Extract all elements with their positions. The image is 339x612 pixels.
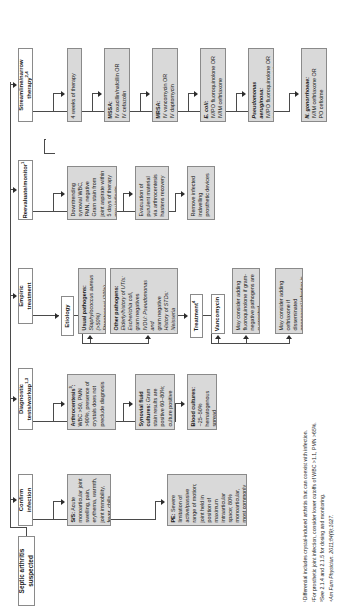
four-weeks-box[interactable]: 4 weeks of therapy xyxy=(67,48,82,122)
diagnostic-column-branch xyxy=(53,404,54,422)
treatment-node[interactable]: Treatment4 xyxy=(190,294,203,338)
column-header-diagnostic-tests[interactable]: Diagnostic tests/workup1,3 xyxy=(18,368,33,430)
four-weeks-text: 4 weeks of therapy xyxy=(70,73,76,118)
streamline-b6h xyxy=(289,94,290,112)
streamline-b2h xyxy=(92,94,93,112)
arrow-to-streamline xyxy=(13,82,17,88)
rotated-figure-wrapper: Septic arthritis suspected Confirm infec… xyxy=(0,0,339,612)
other-pathogens-line-3: gram negatives xyxy=(134,272,141,331)
figure-title: Septic arthritis suspected xyxy=(18,536,35,606)
physical-exam-box[interactable]: PE: Severe limitation of active/passive … xyxy=(167,474,247,526)
confirm-column-stem xyxy=(33,519,53,520)
treatment-sup: 4 xyxy=(191,301,196,303)
column-header-reevaluate-monitor-sup: 1 xyxy=(20,161,25,163)
remove-devices-box[interactable]: Remove infected indwelling prosthetic de… xyxy=(187,166,215,220)
mrsa-line-2: IV daptomycin xyxy=(169,52,176,119)
streamline-column-branch xyxy=(53,94,54,112)
arrow-to-vancomycin xyxy=(215,335,221,339)
footnote-1: ¹Differential includes crystal-induced a… xyxy=(301,366,309,602)
reevaluate-column-stem xyxy=(33,211,53,212)
other-pathogens-line-5: gram negative xyxy=(156,272,163,331)
streamline-b5h xyxy=(236,94,237,112)
etiology-node[interactable]: Etiology xyxy=(61,296,74,336)
arrow-to-mrsa xyxy=(146,91,150,97)
arthrocentesis-lead: Arthrocentesis xyxy=(70,388,76,426)
column-header-confirm-infection[interactable]: Confirm infection xyxy=(18,474,33,526)
usual-pathogens-box[interactable]: Usual pathogens: Staphylococcus aureus (… xyxy=(78,268,106,334)
usual-pathogens-lead: Usual pathogens: xyxy=(81,272,88,331)
column-header-diagnostic-tests-sup: 1,3 xyxy=(24,378,29,384)
evacuation-text: Evacuation of purulent material via arth… xyxy=(138,174,165,216)
ecoli-box[interactable]: E. coli: IV/PO fluoroquinolone OR IV/IM … xyxy=(200,48,226,122)
vancomycin-box[interactable]: Vancomycin xyxy=(211,294,225,334)
column-header-empiric-treatment[interactable]: Empiric treatment xyxy=(18,268,33,324)
column-header-reevaluate-monitor[interactable]: Reevaluate/monitor1 xyxy=(18,160,33,220)
arrow-to-usual-pathogens xyxy=(87,335,93,339)
arrow-to-reevaluate xyxy=(13,187,17,193)
signs-and-symptoms-text: Acute monoarticular joint swelling, pain… xyxy=(70,478,111,523)
downtrending-box[interactable]: Downtrending synovial WBC, PMN, negative… xyxy=(67,166,117,220)
evacuation-box[interactable]: Evacuation of purulent material via arth… xyxy=(135,166,169,220)
arrow-to-evacuation xyxy=(129,191,133,197)
spine-riser xyxy=(10,527,27,528)
downtrending-text: Downtrending synovial WBC, PMN, negative… xyxy=(70,171,117,217)
etiology-label: Etiology xyxy=(64,304,72,327)
add-fluoroquinolone-text: May consider adding fluoroquinolone if g… xyxy=(235,274,260,331)
diagnostic-column-stem xyxy=(33,421,53,422)
blood-lead: Blood cultures: xyxy=(190,387,196,427)
feedback-drop xyxy=(44,139,46,140)
other-pathogens-line-6: History of STDs: Neisseria xyxy=(163,272,177,331)
arrow-to-ecoli xyxy=(194,91,198,97)
other-pathogens-line-1: Elderly/history of UTIs: xyxy=(120,272,127,331)
arrow-to-ss-box xyxy=(61,499,65,505)
pseudomonas-lead: Pseudomonas aeruginosa: xyxy=(251,52,265,119)
streamline-b3h xyxy=(140,94,141,112)
footnote-2: ²For prosthetic joint infection, conside… xyxy=(310,366,318,602)
mssa-line-2: IV cefazolin xyxy=(121,52,128,119)
streamline-column-stem xyxy=(33,111,53,112)
mssa-box[interactable]: MSSA: IV oxacillin/nafcillin OR IV cefaz… xyxy=(104,48,130,122)
mrsa-lead: MRSA: xyxy=(155,52,162,119)
treatment-label: Treatment xyxy=(193,303,199,331)
septic-arthritis-algorithm-figure: Septic arthritis suspected Confirm infec… xyxy=(0,0,339,612)
arthrocentesis-text: WBC >50, PMN >90%, presence of crystals … xyxy=(77,381,104,426)
arrow-to-gonorrhoeae xyxy=(295,91,299,97)
mrsa-line-1: IV vancomycin OR xyxy=(162,52,169,119)
blood-cultures-box[interactable]: Blood cultures: ~25–50% hematogenous spr… xyxy=(187,374,217,430)
blood-text: ~25–50% hematogenous spread xyxy=(197,391,217,427)
pseudomonas-box[interactable]: Pseudomonas aeruginosa: IV/PO fluoroquin… xyxy=(248,48,274,122)
physical-exam-lead: PE: xyxy=(170,514,176,523)
confirm-branch-pe-h xyxy=(155,502,156,520)
footnote-4: ⁴Am Fam Physician. 2011;84(9):1027. xyxy=(327,366,335,602)
arrow-to-add-ceftriaxone xyxy=(286,335,292,339)
gonorrhoeae-line-2: PO cefixime xyxy=(318,52,325,119)
arrow-to-add-fluoroquinolone xyxy=(243,335,249,339)
gonorrhoeae-box[interactable]: N. gonorrhoeae: IV/IM ceftriaxone OR PO … xyxy=(301,48,327,122)
other-pathogens-box[interactable]: Other pathogens: Elderly/history of UTIs… xyxy=(110,268,178,334)
synovial-fluid-cultures-box[interactable]: Synovial fluid cultures: Gram stain resu… xyxy=(135,374,175,430)
column-header-streamline-therapy-sup: 2,4 xyxy=(24,71,29,77)
remove-devices-text: Remove infected indwelling prosthetic de… xyxy=(190,173,210,216)
reevaluate-branch-2h xyxy=(123,194,124,212)
arrow-to-diagnostic xyxy=(13,396,17,402)
arrow-to-pe-box xyxy=(161,499,165,505)
arrow-to-blood xyxy=(181,401,185,407)
empiric-to-etiology xyxy=(33,315,57,316)
other-pathogens-line-7: gonorrhoeae xyxy=(177,272,178,331)
arthrocentesis-box[interactable]: Arthrocentesis3: WBC >50, PMN >90%, pres… xyxy=(67,374,116,430)
spine-top xyxy=(10,82,11,528)
arrow-to-empiric xyxy=(13,293,17,299)
arrow-to-four-weeks xyxy=(61,91,65,97)
arrow-to-synovial xyxy=(129,401,133,407)
ecoli-line-2: IV/IM ceftriaxone xyxy=(217,52,224,119)
arrow-to-remove-devices xyxy=(181,191,185,197)
mrsa-box[interactable]: MRSA: IV vancomycin OR IV daptomycin xyxy=(152,48,178,122)
signs-and-symptoms-box[interactable]: S/S: Acute monoarticular joint swelling,… xyxy=(67,474,111,526)
add-fluoroquinolone-box[interactable]: May consider adding fluoroquinolone if g… xyxy=(232,268,260,334)
feedback-riser xyxy=(44,153,55,154)
column-header-streamline-therapy[interactable]: Streamline/narrow therapy2,4 xyxy=(18,48,33,122)
other-pathogens-line-2: Escherichia coli, xyxy=(127,272,134,331)
streamline-b4h xyxy=(188,94,189,112)
add-ceftriaxone-box[interactable]: May consider adding ceftriaxone if disse… xyxy=(275,268,303,334)
ecoli-lead: E. coli: xyxy=(203,52,210,119)
